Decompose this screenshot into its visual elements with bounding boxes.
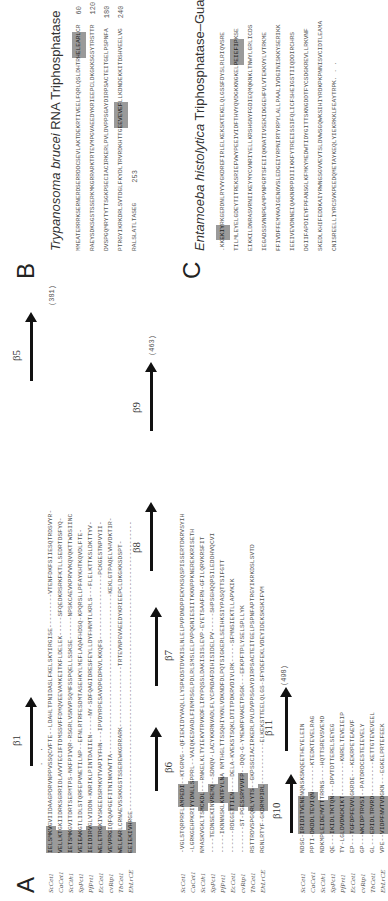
- motif-highlight: VELLKT: [56, 830, 66, 853]
- sequence: KSE: [230, 28, 244, 39]
- species-name: CaCet1: [56, 853, 66, 893]
- beta-strand-arrow-1: [30, 706, 33, 766]
- panel-c-letter: C: [178, 262, 206, 279]
- species-name: PfPrt1: [86, 853, 96, 893]
- sequence: RAEYSDKSGSTSSERKMKGRRARKTRTEVMPGVAEEDYKR…: [86, 25, 100, 252]
- panel-a-letter: A: [12, 877, 40, 893]
- motif-highlight: VIDPFNVTVD: [378, 796, 388, 834]
- beta-strand-arrow-5: [30, 321, 33, 381]
- motif-highlight: VEIEAK: [76, 830, 86, 853]
- sequence: PPRL--VAIQKESVADLFINMPSGLPDLRLSMSLELPVPQ…: [188, 529, 198, 781]
- species-name: EhLrCE: [126, 853, 136, 893]
- alignment-row: EcCet1WELETRGKIVSKEEDSRMKVTVAPIYFHN---IP…: [96, 510, 106, 893]
- alignment-row: cvRtp1GP---WKIDPTRVSI--PATDRDCESTEIEVELY: [358, 712, 368, 893]
- sequence: LCRNAEVSSKKGSTSSEREWKGRRARK-------------…: [116, 540, 126, 830]
- motif-highlight: RLYYTS: [248, 788, 258, 811]
- sequence: GL---: [368, 834, 378, 853]
- motif-highlight: TGFDPFEVVL: [348, 796, 358, 834]
- sequence: RKGERDNLRYVYGKDREFIRLELKEKSKTEKELQLGSSFD…: [216, 32, 230, 225]
- motif-highlight: KNTFYLN: [218, 777, 228, 804]
- panel-b-letter: B: [12, 263, 40, 279]
- sequence: QE---: [328, 834, 338, 853]
- species-name: EhLrCE: [378, 853, 388, 893]
- sequence: --KTGRVG--QFIEKIDYVAQLLLYSPKDSTDVKISLNLE…: [178, 514, 188, 785]
- sequence: PTRGYIKRKDRLSVTDGLFKYDLTRVRDKHTTG: [114, 128, 128, 251]
- sequence-line: .KKEKIYRKGERDNLRYVYGKDREFIRLELKEKSKTEKEL…: [216, 21, 230, 251]
- alignment-row: cvRtp1-------ST-PGESSRYVVFP--DQQ-G-YMEWR…: [238, 514, 248, 893]
- alignment-row: PfPrt1TY-LGLDVDNCKIKT---------KNRELTEVEI…: [338, 712, 348, 893]
- residue-number: 240: [114, 6, 128, 19]
- sequence: LLKDNDEKKITDSHVEELVG: [114, 28, 128, 102]
- beta-strand-arrow-6: [155, 736, 158, 791]
- sequence: GTLIDLSTQRFEPVNETILNP--EFNLRTRFESDMTASEH…: [76, 529, 86, 830]
- sequence: GKN---EGKELPRTEFEEK: [378, 723, 388, 795]
- sequence: RGE-------------------------------------…: [126, 521, 136, 822]
- motif-highlight: EEIEKIVH: [126, 822, 136, 853]
- sequence: GVITDRTSERMTPS-NKFPIVQR-RSGRLVSNVPSQMFSS…: [66, 514, 76, 831]
- motif-highlight: AMPEDI: [178, 784, 188, 807]
- sequence: TILMLEYELGDEYTITREKSRIEFVWYPEEIVIDFTHVYQ…: [230, 65, 244, 251]
- panel-c-title: Entamoeba histolytica Triphosphatase–Gua…: [192, 0, 207, 251]
- sequence: --GKPSSCIACIRKERLPVLDVPPSGAYDIRPSACTEITG…: [248, 544, 258, 788]
- sequence: NDSC-: [298, 834, 308, 853]
- alignment-row: TbCet1WELEARLCRNAEVSSKKGSTSSEREWKGRRARK-…: [116, 510, 126, 893]
- motif-highlight: YYDNLLS: [188, 781, 198, 808]
- alignment-row: SpPct1QE---IKIDLTKTQN---DPVTDTTERELSEYEG: [328, 712, 338, 893]
- species-name: ScCet1: [46, 853, 56, 893]
- species-name: TbCet1: [368, 853, 378, 893]
- sequence: -----------ELKEKSTTEELQLGS-SFYDEFEKLVDEY…: [258, 586, 268, 784]
- sequence: ----TEDNSEKIN: [208, 803, 218, 853]
- species-name: ScCth1: [318, 853, 328, 893]
- beta-label-11: β11: [262, 720, 274, 736]
- species-name: cvRtp1: [238, 853, 248, 893]
- motif-highlight: VREMQ: [208, 784, 218, 803]
- species-name: EhLrCE: [258, 853, 268, 893]
- beta-label-6: β6: [162, 762, 174, 773]
- alignment-row: PfPrt1IEIDIRVGLVIDDN-KNRIKLPINTDAIIEN---…: [86, 510, 96, 893]
- beta-strand-arrow-8: [150, 511, 153, 571]
- sequence: A NMTHGLTTSSQHIYKNLVDKNDFDLPQTSIGKERLSEI…: [218, 559, 228, 776]
- species-name: PfPrt1: [218, 853, 228, 893]
- sequence: ----DELA-KVEKSTSQKLDTITPDKRVDIVLRK-----S…: [228, 578, 238, 792]
- alignment-row: EhLrCEVPE--VIDPFNVTVDGKN---EGKELPRTEFEEK: [378, 712, 388, 893]
- sequence: GVIIDAAGPDRVNPPVSSQCVFTE--LDAHLTPNIDASLF…: [46, 510, 56, 827]
- species-name: CaCet1: [188, 853, 198, 893]
- alignment-row: CaCet1VELLKTGKIIDRKSGRRIDLAVVTECIFTDMSSV…: [56, 510, 66, 893]
- alignment-row: PfPrt1-----IKNNNSKLKNTFYLNA NMTHGLTTSSQH…: [218, 514, 228, 893]
- motif-highlight: IKIDLTKTQN: [328, 796, 338, 834]
- sequence: GKRDE---KEKRPETEAEVF: [348, 720, 358, 796]
- motif-highlight: IELSMKV: [46, 826, 56, 853]
- species-name: EcCet1: [96, 853, 106, 893]
- sequence: IQFQAPGEFITNINKVWTTA--------------------…: [106, 517, 116, 830]
- organism-name: Trypanosoma brucei: [48, 133, 63, 251]
- sequence: RALSLATLTASEG: [128, 203, 142, 251]
- alignment-row: EhLrCERGNLRTYF-GKDRMPIRL-----------ELKEK…: [258, 514, 268, 893]
- sequence-line: FFIVDFFEMVKAIGENOVSLEDGEIYRPNIRTYRPYLALL…: [272, 21, 286, 251]
- residue-count: (381): [48, 285, 56, 306]
- sequence: ------RDEGE: [228, 811, 238, 853]
- alignment-row: ScCth1NMASKVGKLTSMCKDL---RNKELKLTYIEKVTR…: [198, 514, 208, 893]
- motif-highlight: HELEARL: [72, 32, 86, 58]
- alignment-row: EhLrCEEEIEKIVHRGE-----------------------…: [126, 510, 136, 893]
- beta-label-10: β10: [270, 802, 282, 819]
- beta-strand-arrow-10: [290, 783, 293, 833]
- species-name: TbCet1: [248, 853, 258, 893]
- sequence: CNISREELLIYRCSVKPEEDQMETAYKEQLYIEKRKKLFE…: [328, 62, 342, 251]
- sequence: ---DPVTDTTERELSEYEG: [328, 723, 338, 795]
- sequence: -LGRKGEHPKRI: [188, 807, 198, 853]
- beta-label-1: β1: [10, 735, 22, 746]
- sequence: -------KTEDKTEVELRAG: [308, 716, 318, 792]
- motif-highlight: WKIDPTRVSI: [358, 796, 368, 834]
- sequence: NMASKVGKLTS: [198, 811, 208, 853]
- motif-highlight: MCKDL: [198, 792, 208, 811]
- motif-highlight: WELETRG: [96, 826, 106, 853]
- alignment-row: CaCet1-LGRKGEHPKRIYYDNLLSPPRL--VAIQKESVA…: [188, 514, 198, 893]
- sequence: IEGADSSVNNPGAMPVNPGRTSFEIIQKNATIVSEKIDGG…: [258, 32, 272, 251]
- sequence: DGIIFAPDIEYFPFANSGLKFMKYMEDWTIDYGITTSKNG…: [300, 28, 314, 251]
- sequence: RSTTRDVSPGQ: [248, 811, 258, 853]
- beta-strand-arrow-7: [155, 616, 158, 686]
- species-name: ScCth1: [198, 853, 208, 893]
- alignment-row: SpPct1----TEDNSEKINVREMQ--SDNQV-LACYKKRN…: [208, 514, 218, 893]
- organism-name: Entamoeba histolytica: [192, 124, 207, 251]
- protein-name: Triphosphatase–Guanylyltransferase: [192, 0, 207, 124]
